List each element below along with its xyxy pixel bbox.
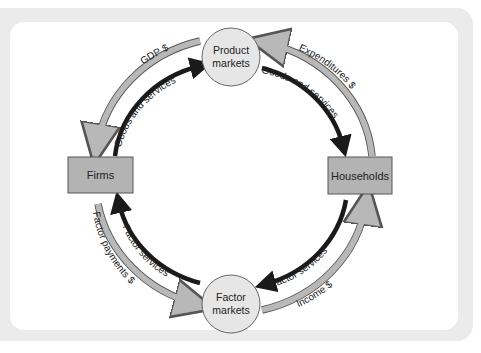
factor-markets-node: Factor markets bbox=[202, 275, 260, 333]
firms-node: Firms bbox=[68, 157, 133, 193]
households-label: Households bbox=[331, 170, 390, 182]
factor-markets-label-line1: Factor bbox=[216, 291, 246, 303]
product-markets-label-line1: Product bbox=[213, 44, 249, 56]
factor-markets-label-line2: markets bbox=[212, 304, 249, 316]
circular-flow-diagram: GDP $ Goods and services Expenditures $ … bbox=[0, 0, 481, 353]
firms-label: Firms bbox=[87, 169, 115, 181]
product-markets-node: Product markets bbox=[202, 28, 260, 86]
factor-payments-label: Factor payments $ bbox=[91, 211, 138, 286]
product-markets-label-line2: markets bbox=[212, 57, 249, 69]
households-node: Households bbox=[328, 157, 392, 194]
